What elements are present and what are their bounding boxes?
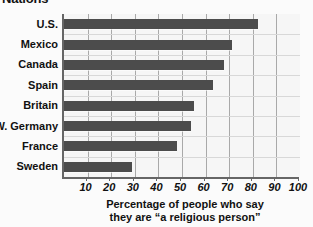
row-separator (64, 116, 300, 117)
y-label-canada: Canada (18, 59, 58, 70)
chart-headline: Nations (2, 0, 48, 6)
row-separator (64, 96, 300, 97)
row-separator (64, 55, 300, 56)
bar-sweden (64, 162, 132, 172)
bar-mexico (64, 40, 232, 50)
x-tick-label-10: 10 (73, 181, 99, 193)
y-label-britain: Britain (23, 100, 58, 111)
row-separator (64, 136, 300, 137)
x-tick-label-90: 90 (261, 181, 287, 193)
plot-inner (64, 14, 300, 177)
x-tick-label-80: 80 (238, 181, 264, 193)
y-label-w-germany: W. Germany (0, 121, 58, 132)
x-tick-label-100: 100 (285, 181, 311, 193)
bar-w-germany (64, 121, 191, 131)
bar-canada (64, 60, 224, 70)
y-label-spain: Spain (28, 80, 58, 91)
y-axis-labels: U.S.MexicoCanadaSpainBritainW. GermanyFr… (0, 14, 58, 177)
row-separator (64, 34, 300, 35)
bar-spain (64, 80, 213, 90)
caption-line-1: Percentage of people who say (60, 198, 310, 211)
caption-line-2: they are “a religious person” (60, 211, 310, 224)
x-tick-label-40: 40 (143, 181, 169, 193)
bar-chart: Nations U.S.MexicoCanadaSpainBritainW. G… (0, 0, 313, 227)
x-tick-label-20: 20 (96, 181, 122, 193)
x-tick-label-70: 70 (214, 181, 240, 193)
x-tick-label-60: 60 (191, 181, 217, 193)
bar-france (64, 141, 177, 151)
row-separator (64, 157, 300, 158)
y-label-mexico: Mexico (21, 39, 58, 50)
bar-u-s (64, 19, 258, 29)
bar-britain (64, 101, 194, 111)
y-label-u-s: U.S. (37, 19, 58, 30)
x-axis-caption: Percentage of people who say they are “a… (60, 198, 310, 224)
row-separator (64, 75, 300, 76)
plot-area (62, 14, 300, 177)
x-tick-label-30: 30 (120, 181, 146, 193)
x-tick-label-50: 50 (167, 181, 193, 193)
y-label-france: France (22, 141, 58, 152)
y-label-sweden: Sweden (16, 161, 58, 172)
